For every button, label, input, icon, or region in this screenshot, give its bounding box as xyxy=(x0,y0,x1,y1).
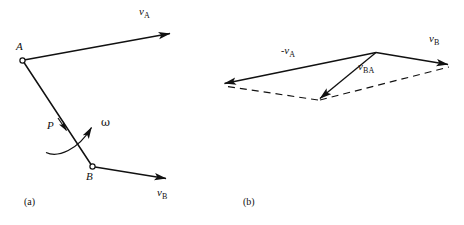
panel-caption-a: (a) xyxy=(24,197,35,207)
point-label-p: P xyxy=(47,120,54,131)
vector-label-vb-panelb-subscript: B xyxy=(434,38,440,47)
closure-right-dashed xyxy=(320,67,449,100)
vector-label-neg-va-subscript: A xyxy=(289,50,295,59)
vector-label-vba: vBA xyxy=(358,61,374,75)
omega-label: ω xyxy=(101,117,110,128)
vector-label-vb: vB xyxy=(157,187,167,201)
figure-canvas xyxy=(0,0,464,225)
vector-label-vb-subscript: B xyxy=(162,192,168,201)
vector-label-va: vA xyxy=(139,6,150,20)
closure-left-dashed xyxy=(224,86,318,100)
vector-vba-shaft xyxy=(320,53,376,99)
vector-label-vb-panelb: vB xyxy=(429,33,439,47)
point-label-b: B xyxy=(86,171,93,182)
vector-label-va-subscript: A xyxy=(144,11,150,20)
link-ab-line xyxy=(23,61,92,166)
vector-label-neg-va: -vA xyxy=(281,45,295,59)
joint-b-marker xyxy=(90,164,95,169)
panel-caption-b: (b) xyxy=(243,197,255,207)
vector-neg-va-shaft xyxy=(225,53,377,84)
panel-b-graphics xyxy=(224,53,449,101)
panel-a-graphics xyxy=(20,34,170,179)
figure-container: A B P vA vB ω (a) -vA vBA vB (b) xyxy=(0,0,464,225)
vector-label-vba-subscript: BA xyxy=(363,66,375,75)
vector-vb-panelb-shaft xyxy=(376,53,448,65)
vector-vb-shaft xyxy=(95,167,166,179)
vector-va-shaft xyxy=(24,34,170,61)
joint-a-marker xyxy=(20,58,25,63)
point-label-a: A xyxy=(16,41,23,52)
